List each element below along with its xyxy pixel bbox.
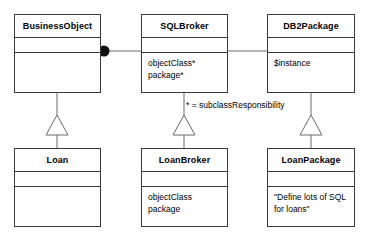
class-attributes-loanpackage: "Define lots of SQL for loans" xyxy=(268,187,354,215)
generalization-triangle-loanbroker-icon xyxy=(173,115,195,135)
class-name-sqlbroker: SQLBroker xyxy=(142,15,227,38)
class-name-businessobject: BusinessObject xyxy=(15,15,100,38)
class-name-loanbroker: LoanBroker xyxy=(142,149,227,172)
class-name-loan: Loan xyxy=(15,149,100,172)
generalization-triangle-loanpackage-icon xyxy=(300,115,322,135)
class-box-db2package[interactable]: DB2Package $instance xyxy=(267,14,355,93)
uml-class-diagram: BusinessObject SQLBroker objectClass* pa… xyxy=(0,0,368,237)
class-attributes-businessobject xyxy=(15,53,100,58)
class-box-loanbroker[interactable]: LoanBroker objectClass package xyxy=(141,148,228,227)
attribute-row: for loans" xyxy=(274,204,348,216)
class-compartment-middle xyxy=(142,172,227,187)
attribute-row: "Define lots of SQL xyxy=(274,192,348,204)
class-compartment-middle xyxy=(142,38,227,53)
attribute-row: $instance xyxy=(274,58,348,70)
class-box-loanpackage[interactable]: LoanPackage "Define lots of SQL for loan… xyxy=(267,148,355,227)
class-attributes-db2package: $instance xyxy=(268,53,354,70)
class-name-db2package: DB2Package xyxy=(268,15,354,38)
attribute-row: package* xyxy=(148,70,221,82)
note-subclass-responsibility: * = subclassResponsibility xyxy=(186,101,285,110)
class-box-loan[interactable]: Loan xyxy=(14,148,101,227)
class-box-sqlbroker[interactable]: SQLBroker objectClass* package* xyxy=(141,14,228,93)
class-box-businessobject[interactable]: BusinessObject xyxy=(14,14,101,93)
attribute-row: objectClass* xyxy=(148,58,221,70)
class-attributes-loan xyxy=(15,187,100,192)
class-compartment-middle xyxy=(15,172,100,187)
class-compartment-middle xyxy=(268,172,354,187)
generalization-triangle-loan-icon xyxy=(46,115,68,135)
class-attributes-sqlbroker: objectClass* package* xyxy=(142,53,227,81)
class-name-loanpackage: LoanPackage xyxy=(268,149,354,172)
class-attributes-loanbroker: objectClass package xyxy=(142,187,227,215)
attribute-row: objectClass xyxy=(148,192,221,204)
attribute-row: package xyxy=(148,204,221,216)
class-compartment-middle xyxy=(268,38,354,53)
class-compartment-middle xyxy=(15,38,100,53)
